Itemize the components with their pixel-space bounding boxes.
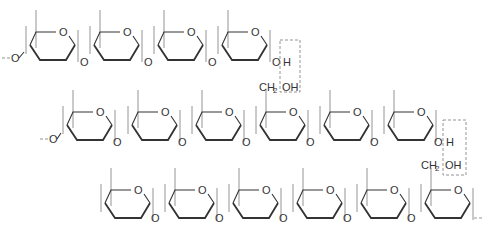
- svg-text:O: O: [178, 136, 187, 148]
- svg-text:O: O: [262, 184, 271, 196]
- svg-text:O: O: [49, 133, 58, 145]
- svg-text:O: O: [113, 136, 122, 148]
- svg-text:O: O: [434, 136, 443, 148]
- svg-text:H: H: [446, 136, 454, 148]
- glucose-ring: O: [101, 168, 153, 220]
- glucose-ring: O: [128, 90, 180, 142]
- svg-text:O: O: [279, 212, 288, 224]
- svg-text:O: O: [123, 26, 132, 38]
- svg-text:O: O: [151, 212, 160, 224]
- svg-text:O: O: [370, 136, 379, 148]
- svg-text:O: O: [96, 106, 105, 118]
- svg-text:O: O: [225, 106, 234, 118]
- glucose-ring: O: [154, 10, 206, 62]
- svg-text:O: O: [407, 212, 416, 224]
- chain-3: O O O O O O O O O O O: [101, 168, 484, 224]
- glucose-ring: O: [218, 10, 270, 62]
- svg-text:O: O: [208, 56, 217, 68]
- svg-text:O: O: [326, 184, 335, 196]
- svg-text:O: O: [80, 56, 89, 68]
- svg-text:O: O: [215, 212, 224, 224]
- glucose-ring-branched: O: [421, 168, 473, 220]
- ch2oh-group: CH 2 OH: [259, 81, 299, 95]
- svg-text:O: O: [306, 136, 315, 148]
- svg-text:O: O: [242, 136, 251, 148]
- svg-text:O: O: [353, 106, 362, 118]
- svg-text:O: O: [289, 106, 298, 118]
- svg-text:2: 2: [273, 86, 278, 95]
- glucose-ring: O: [384, 90, 436, 142]
- svg-text:O: O: [144, 56, 153, 68]
- svg-text:O: O: [134, 184, 143, 196]
- glucose-ring: O: [165, 168, 217, 220]
- ch2oh-group: CH 2 OH: [421, 159, 462, 173]
- svg-text:O: O: [59, 26, 68, 38]
- chain-2: O O O O O O O O O O O O O H: [40, 90, 454, 148]
- svg-text:OH: OH: [445, 159, 462, 171]
- glucose-ring: O: [63, 90, 115, 142]
- glucose-ring: O: [229, 168, 281, 220]
- glucose-ring: O: [320, 90, 372, 142]
- svg-text:O: O: [161, 106, 170, 118]
- glucose-ring: O: [90, 10, 142, 62]
- glucose-ring: O: [293, 168, 345, 220]
- svg-text:H: H: [283, 56, 291, 68]
- glucose-ring: O: [26, 10, 78, 62]
- glucose-ring: O: [357, 168, 409, 220]
- svg-text:2: 2: [435, 164, 440, 173]
- svg-text:O: O: [454, 184, 463, 196]
- svg-text:O: O: [187, 26, 196, 38]
- linkage-oxygen: O: [11, 52, 20, 64]
- svg-text:O: O: [343, 212, 352, 224]
- svg-text:O: O: [198, 184, 207, 196]
- svg-text:O: O: [251, 26, 260, 38]
- glucose-ring-branched: O: [256, 90, 308, 142]
- svg-text:O: O: [417, 106, 426, 118]
- svg-text:O: O: [390, 184, 399, 196]
- glucose-ring: O: [192, 90, 244, 142]
- glycogen-structure-diagram: O O O O O O O O O H CH 2 OH O O O O O O …: [0, 0, 485, 228]
- svg-text:OH: OH: [282, 81, 299, 93]
- chain-1: O O O O O O O O O H: [2, 10, 291, 68]
